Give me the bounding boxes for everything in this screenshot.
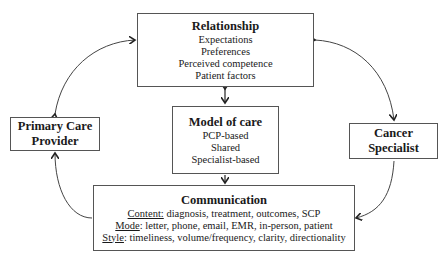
relationship-item: Perceived competence (138, 58, 313, 70)
style-label: Style (102, 232, 124, 243)
cancer-label-line2: Specialist (350, 141, 437, 156)
model-of-care-item: PCP-based (173, 130, 278, 142)
relationship-item: Preferences (138, 46, 313, 58)
model-of-care-item: Shared (173, 142, 278, 154)
content-label: Content: (128, 208, 164, 219)
pcp-label-line1: Primary Care (11, 119, 99, 134)
mode-label: Mode (115, 220, 140, 231)
relationship-item: Expectations (138, 34, 313, 46)
arrow-relationship-cancer (315, 40, 394, 120)
model-of-care-box: Model of care PCP-based Shared Specialis… (172, 106, 279, 174)
cancer-label-line1: Cancer (350, 126, 437, 141)
relationship-title: Relationship (138, 19, 313, 34)
communication-title: Communication (94, 193, 354, 208)
model-of-care-item: Specialist-based (173, 154, 278, 166)
communication-row-mode: Mode: letter, phone, email, EMR, in-pers… (94, 220, 354, 232)
model-of-care-title: Model of care (173, 115, 278, 130)
relationship-item: Patient factors (138, 70, 313, 82)
relationship-box: Relationship Expectations Preferences Pe… (137, 13, 314, 87)
style-text: : timeliness, volume/frequency, clarity,… (124, 232, 346, 243)
communication-box: Communication Content: diagnosis, treatm… (93, 185, 355, 251)
diagram-canvas: Relationship Expectations Preferences Pe… (0, 0, 448, 257)
arrow-cancer-communication (356, 161, 394, 218)
pcp-label-line2: Provider (11, 134, 99, 149)
arrow-communication-pcp (55, 153, 92, 218)
primary-care-provider-box: Primary Care Provider (10, 117, 100, 151)
communication-row-style: Style: timeliness, volume/frequency, cla… (94, 232, 354, 244)
content-text: diagnosis, treatment, outcomes, SCP (164, 208, 321, 219)
mode-text: : letter, phone, email, EMR, in-person, … (140, 220, 333, 231)
communication-row-content: Content: diagnosis, treatment, outcomes,… (94, 208, 354, 220)
arrow-pcp-relationship (55, 40, 135, 114)
cancer-specialist-box: Cancer Specialist (349, 123, 438, 159)
